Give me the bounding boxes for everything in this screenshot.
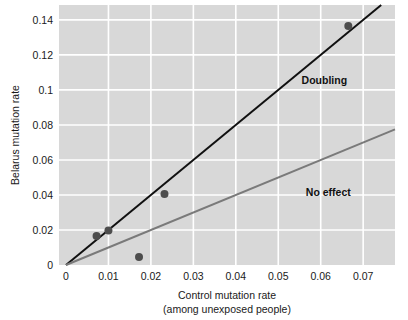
x-tick-label-2: 0.02 xyxy=(141,270,162,282)
y-tick-label-1: 0.02 xyxy=(33,224,54,236)
data-point-2 xyxy=(135,253,143,261)
x-tick-label-0: 0 xyxy=(63,270,69,282)
data-point-4 xyxy=(344,22,352,30)
y-tick-label-6: 0.12 xyxy=(33,49,54,61)
y-tick-label-2: 0.04 xyxy=(33,189,54,201)
x-axis-title-line1: Control mutation rate xyxy=(178,289,276,301)
x-tick-label-5: 0.05 xyxy=(268,270,289,282)
x-tick-label-7: 0.07 xyxy=(353,270,374,282)
x-tick-label-3: 0.03 xyxy=(183,270,204,282)
y-tick-label-3: 0.06 xyxy=(33,154,54,166)
x-tick-label-4: 0.04 xyxy=(226,270,247,282)
series-label-doubling: Doubling xyxy=(302,74,348,86)
plot-background xyxy=(59,5,395,265)
chart-container: 00.010.020.030.040.050.060.07 00.020.040… xyxy=(0,0,408,320)
series-label-no-effect: No effect xyxy=(306,186,351,198)
x-tick-labels: 00.010.020.030.040.050.060.07 xyxy=(63,270,373,282)
y-tick-labels: 00.020.040.060.080.10.120.14 xyxy=(33,14,54,271)
x-tick-label-6: 0.06 xyxy=(310,270,331,282)
data-point-0 xyxy=(93,232,101,240)
data-point-3 xyxy=(160,190,168,198)
data-point-1 xyxy=(104,227,112,235)
y-tick-label-4: 0.08 xyxy=(33,119,54,131)
scatter-chart: 00.010.020.030.040.050.060.07 00.020.040… xyxy=(0,0,408,320)
x-tick-label-1: 0.01 xyxy=(98,270,119,282)
y-axis-title: Belarus mutation rate xyxy=(9,85,21,185)
y-tick-label-7: 0.14 xyxy=(33,14,54,26)
x-axis-title-line2: (among unexposed people) xyxy=(163,303,291,315)
y-tick-label-0: 0 xyxy=(47,259,53,271)
y-tick-label-5: 0.1 xyxy=(38,84,53,96)
